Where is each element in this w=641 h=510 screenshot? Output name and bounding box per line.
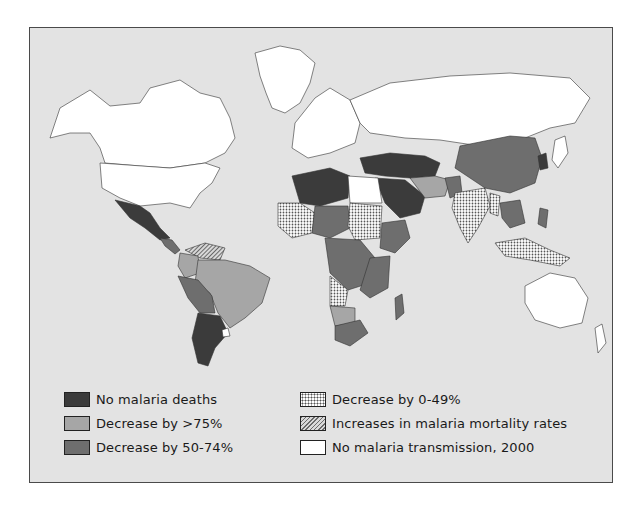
legend-label: No malaria deaths xyxy=(96,392,217,407)
legend-item-decrease-50-74: Decrease by 50-74% xyxy=(64,437,233,457)
swatch-hatch xyxy=(300,416,326,431)
legend-label: Decrease by >75% xyxy=(96,416,223,431)
legend-label: Decrease by 0-49% xyxy=(332,392,461,407)
legend-item-decrease-gt75: Decrease by >75% xyxy=(64,413,223,433)
swatch-light xyxy=(64,416,90,431)
legend-item-no-transmission: No malaria transmission, 2000 xyxy=(300,437,534,457)
legend-label: Decrease by 50-74% xyxy=(96,440,233,455)
legend-item-increase: Increases in malaria mortality rates xyxy=(300,413,567,433)
legend-item-no-deaths: No malaria deaths xyxy=(64,389,217,409)
swatch-white xyxy=(300,440,326,455)
legend-label: No malaria transmission, 2000 xyxy=(332,440,534,455)
map-legend: No malaria deaths Decrease by >75% Decre… xyxy=(30,28,614,484)
map-figure: No malaria deaths Decrease by >75% Decre… xyxy=(29,27,613,483)
legend-label: Increases in malaria mortality rates xyxy=(332,416,567,431)
legend-item-decrease-0-49: Decrease by 0-49% xyxy=(300,389,461,409)
swatch-dark xyxy=(64,392,90,407)
swatch-dots xyxy=(300,392,326,407)
swatch-mid xyxy=(64,440,90,455)
